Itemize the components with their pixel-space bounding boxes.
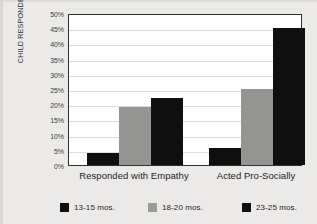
y-axis-title: % OF DISTRESSFUL EVENTS CHILD RESPONDED … bbox=[5, 0, 35, 44]
scan-edge-left bbox=[0, 0, 3, 224]
y-axis-tick-label: 50% bbox=[50, 11, 64, 18]
bars-layer bbox=[69, 15, 301, 165]
y-axis-title-line-2: CHILD RESPONDED TO bbox=[16, 0, 25, 63]
x-axis-category-label: Acted Pro-Socially bbox=[217, 170, 296, 181]
y-axis-tick-label: 5% bbox=[54, 147, 64, 154]
legend-swatch-icon bbox=[242, 203, 251, 212]
y-axis-tick-label: 30% bbox=[50, 71, 64, 78]
bar-group bbox=[87, 15, 183, 165]
legend-swatch-icon bbox=[60, 203, 69, 212]
bar bbox=[209, 148, 241, 165]
legend-item[interactable]: 23-25 mos. bbox=[242, 203, 297, 212]
legend-swatch-icon bbox=[148, 203, 157, 212]
y-axis-tick-label: 10% bbox=[50, 132, 64, 139]
y-axis-tick-label: 0% bbox=[54, 163, 64, 170]
chart-legend: 13-15 mos.18-20 mos.23-25 mos. bbox=[20, 199, 307, 215]
y-axis-tick-label: 40% bbox=[50, 41, 64, 48]
bar bbox=[119, 107, 151, 165]
bar-group bbox=[209, 15, 305, 165]
plot-area bbox=[68, 14, 302, 166]
legend-item[interactable]: 18-20 mos. bbox=[148, 203, 203, 212]
bar bbox=[151, 98, 183, 165]
x-axis-category-label: Responded with Empathy bbox=[79, 170, 188, 181]
y-axis-tick-label: 15% bbox=[50, 117, 64, 124]
legend-item[interactable]: 13-15 mos. bbox=[60, 203, 115, 212]
y-axis-tick-label: 25% bbox=[50, 87, 64, 94]
bar bbox=[241, 89, 273, 165]
scan-edge-top bbox=[0, 0, 317, 2]
bar bbox=[273, 28, 305, 165]
x-axis-category-labels: Responded with EmpathyActed Pro-Socially bbox=[68, 170, 302, 186]
bar bbox=[87, 153, 119, 165]
y-axis-tick-label: 35% bbox=[50, 56, 64, 63]
legend-label: 13-15 mos. bbox=[74, 203, 115, 212]
y-axis-tick-labels: 0%5%10%15%20%25%30%35%40%45%50% bbox=[38, 14, 66, 166]
legend-label: 23-25 mos. bbox=[256, 203, 297, 212]
bar-chart-figure: % OF DISTRESSFUL EVENTS CHILD RESPONDED … bbox=[0, 0, 317, 224]
legend-label: 18-20 mos. bbox=[162, 203, 203, 212]
y-axis-tick-label: 45% bbox=[50, 26, 64, 33]
y-axis-tick-label: 20% bbox=[50, 102, 64, 109]
